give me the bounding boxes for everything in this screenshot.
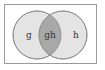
intersection-label: gh — [44, 30, 56, 40]
venn-diagram: g gh h — [0, 0, 105, 70]
left-only-label: g — [26, 30, 32, 40]
right-only-label: h — [73, 30, 79, 40]
